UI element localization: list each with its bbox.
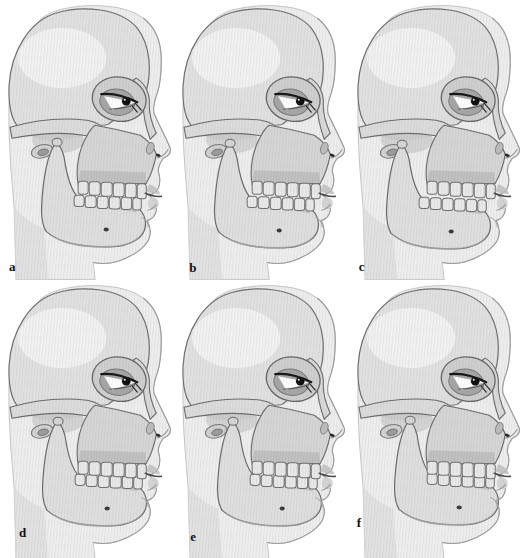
skull-profile-illustration-c [349, 0, 523, 280]
soft-tissue-profile-layer [0, 0, 174, 280]
figure-canvas: a b c d [0, 0, 523, 558]
soft-tissue-profile-layer [349, 280, 523, 558]
soft-tissue-profile-layer [349, 0, 523, 280]
panel-label-c: c [359, 260, 365, 273]
figure-panel-f: f [349, 280, 523, 558]
panel-label-b: b [189, 261, 196, 274]
panel-label-a: a [9, 260, 16, 273]
skull-profile-illustration-e [174, 280, 348, 558]
panel-label-d: d [19, 526, 26, 539]
figure-panel-a: a [0, 0, 174, 280]
figure-panel-b: b [174, 0, 348, 280]
soft-tissue-profile-layer [174, 280, 348, 558]
skull-profile-illustration-b [174, 0, 348, 280]
soft-tissue-profile-layer [0, 280, 174, 558]
skull-profile-illustration-a [0, 0, 174, 280]
panel-label-f: f [357, 516, 361, 529]
figure-panel-d: d [0, 280, 174, 558]
skull-profile-illustration-d [0, 280, 174, 558]
figure-panel-e: e [174, 280, 348, 558]
figure-panel-c: c [349, 0, 523, 280]
skull-profile-illustration-f [349, 280, 523, 558]
soft-tissue-profile-layer [174, 0, 348, 280]
panel-label-e: e [190, 530, 196, 543]
